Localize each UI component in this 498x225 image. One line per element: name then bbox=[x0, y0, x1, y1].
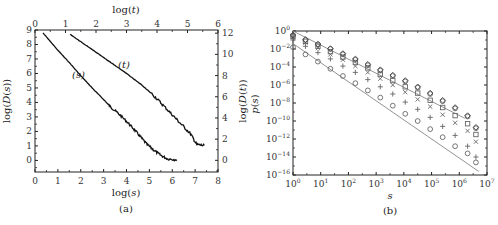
y-left-tick-label: 1 bbox=[26, 141, 32, 151]
circle-marker bbox=[415, 119, 420, 124]
panel-b-caption: (b) bbox=[383, 205, 397, 216]
x-marker bbox=[441, 113, 445, 117]
y-left-tick-label: 6 bbox=[26, 68, 32, 78]
panel-a-ticks: 01234567801234560123456789024681012 bbox=[26, 19, 233, 186]
x-marker bbox=[341, 58, 345, 62]
annotation-t: (t) bbox=[118, 59, 130, 70]
y-left-tick-label: 5 bbox=[26, 83, 32, 93]
plus-marker bbox=[390, 91, 395, 96]
plus-marker bbox=[403, 100, 408, 105]
tick-label: 106 bbox=[452, 177, 467, 189]
plus-marker bbox=[428, 115, 433, 120]
circle-marker bbox=[328, 66, 333, 71]
plus-marker bbox=[353, 70, 358, 75]
y-right-tick-label: 0 bbox=[222, 155, 228, 165]
top-x-tick-label: 6 bbox=[215, 19, 221, 29]
x-tick-label: 6 bbox=[169, 176, 175, 186]
annotation-s: (s) bbox=[72, 69, 85, 80]
plus-marker bbox=[315, 50, 320, 55]
circle-marker bbox=[365, 88, 370, 93]
square-marker bbox=[474, 132, 478, 136]
series-line bbox=[43, 33, 177, 161]
x-tick-label: 0 bbox=[32, 176, 38, 186]
panel-a-series bbox=[43, 33, 204, 161]
circle-marker bbox=[428, 127, 433, 132]
y-right-tick-label: 12 bbox=[222, 28, 233, 38]
x-marker bbox=[366, 70, 370, 74]
tick-label: 103 bbox=[369, 177, 384, 189]
plus-marker bbox=[415, 107, 420, 112]
top-x-tick-label: 2 bbox=[93, 19, 99, 29]
x-marker bbox=[378, 77, 382, 81]
tick-label: 10−12 bbox=[266, 132, 290, 144]
y-right-tick-label: 2 bbox=[222, 134, 228, 144]
x-marker bbox=[428, 105, 432, 109]
y-left-tick-label: 7 bbox=[26, 54, 32, 64]
tick-label: 102 bbox=[341, 177, 356, 189]
y-right-tick-label: 8 bbox=[222, 71, 228, 81]
x-tick-label: 7 bbox=[192, 176, 198, 186]
panel-b-fit-lines bbox=[293, 31, 479, 171]
panel-b-frame bbox=[293, 31, 487, 175]
panel-b-markers bbox=[290, 32, 479, 165]
top-x-tick-label: 4 bbox=[154, 19, 160, 29]
x-marker bbox=[403, 90, 407, 94]
panel-b-chart: 10010110210310410510610710010−210−410−61… bbox=[249, 24, 495, 216]
figure: 01234567801234560123456789024681012 log(… bbox=[0, 0, 498, 225]
y-left-tick-label: 2 bbox=[26, 126, 32, 136]
x-marker bbox=[328, 52, 332, 56]
circle-marker bbox=[453, 144, 458, 149]
panel-b-xlabel: s bbox=[387, 190, 392, 201]
plus-marker bbox=[328, 56, 333, 61]
top-x-tick-label: 3 bbox=[124, 19, 130, 29]
x-tick-label: 1 bbox=[55, 176, 61, 186]
panel-a-bottom-xlabel: log(s) bbox=[112, 187, 141, 198]
tick-label: 10−10 bbox=[266, 114, 290, 126]
x-tick-label: 3 bbox=[101, 176, 107, 186]
circle-marker bbox=[465, 151, 470, 156]
y-right-tick-label: 6 bbox=[222, 92, 228, 102]
circle-marker bbox=[474, 160, 479, 165]
x-marker bbox=[391, 83, 395, 87]
tick-label: 10−4 bbox=[270, 60, 290, 72]
fit-line bbox=[293, 44, 479, 172]
plus-marker bbox=[473, 154, 478, 159]
x-marker bbox=[416, 97, 420, 101]
plus-marker bbox=[365, 77, 370, 82]
tick-label: 10−2 bbox=[270, 42, 290, 54]
tick-label: 107 bbox=[479, 177, 494, 189]
panel-b-ylabel: p(s) bbox=[249, 94, 260, 113]
circle-marker bbox=[353, 81, 358, 86]
panel-a-left-ylabel: log(D(s)) bbox=[1, 79, 12, 124]
panel-a-caption: (a) bbox=[119, 203, 133, 214]
x-tick-label: 5 bbox=[147, 176, 153, 186]
plus-marker bbox=[453, 133, 458, 138]
plus-marker bbox=[340, 64, 345, 69]
x-tick-label: 2 bbox=[78, 176, 84, 186]
tick-label: 104 bbox=[396, 177, 411, 189]
tick-label: 101 bbox=[313, 177, 328, 189]
top-x-tick-label: 5 bbox=[185, 19, 191, 29]
circle-marker bbox=[390, 103, 395, 108]
panel-a-right-ylabel: log(D(t)) bbox=[237, 79, 248, 122]
y-left-tick-label: 8 bbox=[26, 39, 32, 49]
panel-a-frame bbox=[35, 30, 218, 172]
top-x-tick-label: 1 bbox=[63, 19, 69, 29]
y-right-tick-label: 4 bbox=[222, 113, 228, 123]
tick-label: 10−6 bbox=[270, 78, 290, 90]
y-left-tick-label: 4 bbox=[26, 97, 32, 107]
x-marker bbox=[474, 140, 478, 144]
plus-marker bbox=[378, 84, 383, 89]
y-right-tick-label: 10 bbox=[222, 49, 234, 59]
top-x-tick-label: 0 bbox=[32, 19, 38, 29]
series-line bbox=[70, 34, 204, 146]
y-left-tick-label: 9 bbox=[26, 25, 32, 35]
y-left-tick-label: 3 bbox=[26, 112, 32, 122]
tick-label: 105 bbox=[424, 177, 439, 189]
square-marker bbox=[465, 122, 469, 126]
circle-marker bbox=[403, 111, 408, 116]
y-left-tick-label: 0 bbox=[26, 155, 32, 165]
tick-label: 100 bbox=[275, 24, 290, 36]
x-marker bbox=[466, 129, 470, 133]
plus-marker bbox=[465, 144, 470, 149]
